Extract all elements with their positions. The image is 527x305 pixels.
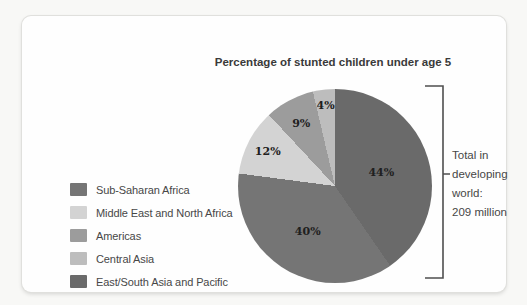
legend-swatch bbox=[70, 275, 87, 288]
legend-label: Americas bbox=[96, 230, 141, 242]
pie-slice-label: 44% bbox=[368, 165, 394, 178]
legend-item: Americas bbox=[70, 224, 233, 247]
legend-swatch bbox=[70, 252, 87, 265]
pie-slice-label: 9% bbox=[292, 116, 310, 129]
chart-title: Percentage of stunted children under age… bbox=[215, 56, 451, 68]
legend-label: Sub-Saharan Africa bbox=[96, 184, 190, 196]
legend-label: Middle East and North Africa bbox=[96, 207, 233, 219]
pie-slice-label: 12% bbox=[255, 145, 281, 158]
legend-item: East/South Asia and Pacific bbox=[70, 270, 233, 293]
legend-label: East/South Asia and Pacific bbox=[96, 276, 228, 288]
total-annotation: Total in developing world: 209 million bbox=[452, 146, 527, 222]
legend-swatch bbox=[70, 206, 87, 219]
pie-slice-label: 4% bbox=[317, 99, 335, 112]
legend-swatch bbox=[70, 229, 87, 242]
legend-label: Central Asia bbox=[96, 253, 154, 265]
legend-item: Middle East and North Africa bbox=[70, 201, 233, 224]
legend: Sub-Saharan AfricaMiddle East and North … bbox=[70, 178, 233, 293]
legend-item: Central Asia bbox=[70, 247, 233, 270]
total-bracket-icon bbox=[422, 84, 454, 284]
pie-chart: 44%40%12%9%4% bbox=[238, 89, 432, 283]
pie-slice-label: 40% bbox=[295, 224, 321, 237]
figure-card: Percentage of stunted children under age… bbox=[22, 16, 506, 292]
legend-item: Sub-Saharan Africa bbox=[70, 178, 233, 201]
legend-swatch bbox=[70, 183, 87, 196]
